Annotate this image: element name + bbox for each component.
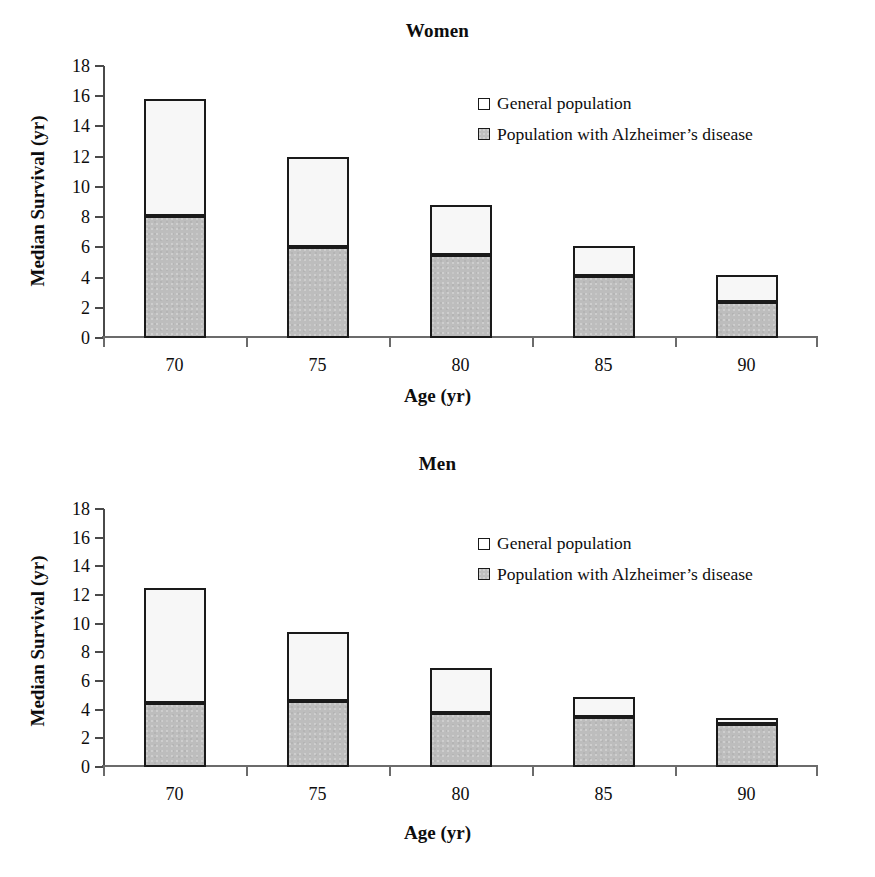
bar-segment-alzheimers[interactable] xyxy=(430,713,492,767)
legend-swatch-alzheimers-icon xyxy=(478,568,490,580)
x-tick-mark-women-4 xyxy=(675,337,677,347)
x-axis-title-women: Age (yr) xyxy=(0,385,875,407)
legend-swatch-general-icon xyxy=(478,98,490,110)
bar-segment-general[interactable] xyxy=(573,246,635,276)
x-tick-mark-women-end xyxy=(816,337,818,347)
y-tick-label: 8 xyxy=(81,643,90,661)
panel-title-women: Women xyxy=(0,20,875,42)
bar-segment-general[interactable] xyxy=(430,205,492,255)
y-tick-mark xyxy=(95,216,104,218)
y-tick-mark xyxy=(95,737,104,739)
bar-segment-alzheimers[interactable] xyxy=(573,276,635,338)
y-tick-mark xyxy=(95,307,104,309)
x-tick-label-women-90: 90 xyxy=(717,355,777,376)
y-tick-label: 14 xyxy=(72,557,90,575)
bar-men-age-85[interactable] xyxy=(573,697,635,767)
figure-two-stacked-bar-charts: Women Median Survival (yr) Age (yr) 0246… xyxy=(0,0,875,877)
x-tick-mark-women-0 xyxy=(103,337,105,347)
bar-segment-alzheimers[interactable] xyxy=(287,247,349,338)
bar-men-age-75[interactable] xyxy=(287,632,349,767)
bar-segment-alzheimers[interactable] xyxy=(287,701,349,767)
bar-women-age-70[interactable] xyxy=(144,99,206,338)
bar-men-age-90[interactable] xyxy=(716,718,778,767)
y-tick-label: 10 xyxy=(72,178,90,196)
panel-men: Men Median Survival (yr) Age (yr) 024681… xyxy=(0,440,875,877)
x-tick-mark-women-3 xyxy=(532,337,534,347)
y-tick-mark xyxy=(95,508,104,510)
bar-men-age-70[interactable] xyxy=(144,588,206,767)
panel-title-men: Men xyxy=(0,453,875,475)
x-tick-label-men-85: 85 xyxy=(574,784,634,805)
y-tick-label: 18 xyxy=(72,500,90,518)
y-tick-label: 10 xyxy=(72,615,90,633)
legend-item-general-population[interactable]: General population xyxy=(478,95,753,113)
x-tick-mark-men-3 xyxy=(532,766,534,776)
bar-segment-general[interactable] xyxy=(716,275,778,302)
y-tick-mark xyxy=(95,156,104,158)
bar-segment-general[interactable] xyxy=(287,632,349,701)
bar-segment-alzheimers[interactable] xyxy=(716,302,778,338)
legend-item-alzheimers-population[interactable]: Population with Alzheimer’s disease xyxy=(478,566,753,584)
x-tick-mark-women-2 xyxy=(389,337,391,347)
x-tick-label-men-70: 70 xyxy=(145,784,205,805)
x-tick-label-women-85: 85 xyxy=(574,355,634,376)
legend-item-general-population[interactable]: General population xyxy=(478,535,753,553)
bar-segment-alzheimers[interactable] xyxy=(716,724,778,767)
y-tick-mark xyxy=(95,246,104,248)
y-axis-line-women xyxy=(103,66,105,338)
y-tick-mark xyxy=(95,186,104,188)
bar-men-age-80[interactable] xyxy=(430,668,492,767)
legend-swatch-general-icon xyxy=(478,538,490,550)
bar-women-age-80[interactable] xyxy=(430,205,492,338)
x-tick-label-men-90: 90 xyxy=(717,784,777,805)
bar-segment-general[interactable] xyxy=(144,588,206,703)
x-tick-mark-men-1 xyxy=(246,766,248,776)
x-tick-mark-women-1 xyxy=(246,337,248,347)
y-tick-label: 6 xyxy=(81,672,90,690)
y-tick-label: 4 xyxy=(81,269,90,287)
y-tick-label: 2 xyxy=(81,299,90,317)
y-tick-label: 2 xyxy=(81,729,90,747)
bar-women-age-85[interactable] xyxy=(573,246,635,338)
y-tick-mark xyxy=(95,125,104,127)
legend-label-general-population: General population xyxy=(497,95,632,113)
y-axis-title-women: Median Survival (yr) xyxy=(27,91,49,311)
x-tick-label-women-80: 80 xyxy=(431,355,491,376)
y-tick-label: 18 xyxy=(72,57,90,75)
bar-segment-alzheimers[interactable] xyxy=(430,255,492,338)
legend-women: General population Population with Alzhe… xyxy=(478,95,753,156)
bar-segment-general[interactable] xyxy=(287,157,349,248)
bar-segment-general[interactable] xyxy=(430,668,492,713)
legend-label-alzheimers-population: Population with Alzheimer’s disease xyxy=(497,566,753,584)
legend-item-alzheimers-population[interactable]: Population with Alzheimer’s disease xyxy=(478,126,753,144)
x-tick-mark-men-0 xyxy=(103,766,105,776)
x-tick-mark-men-4 xyxy=(675,766,677,776)
bar-women-age-75[interactable] xyxy=(287,157,349,338)
bar-segment-alzheimers[interactable] xyxy=(573,717,635,767)
legend-label-general-population: General population xyxy=(497,535,632,553)
y-tick-label: 8 xyxy=(81,208,90,226)
bar-segment-alzheimers[interactable] xyxy=(144,703,206,768)
y-axis-line-men xyxy=(103,509,105,767)
legend-swatch-alzheimers-icon xyxy=(478,128,490,140)
panel-women: Women Median Survival (yr) Age (yr) 0246… xyxy=(0,0,875,440)
y-tick-label: 12 xyxy=(72,148,90,166)
x-tick-label-women-70: 70 xyxy=(145,355,205,376)
y-tick-label: 6 xyxy=(81,238,90,256)
bar-segment-general[interactable] xyxy=(573,697,635,717)
y-tick-label: 14 xyxy=(72,117,90,135)
y-tick-label: 12 xyxy=(72,586,90,604)
y-tick-mark xyxy=(95,623,104,625)
y-tick-mark xyxy=(95,680,104,682)
bar-segment-alzheimers[interactable] xyxy=(144,216,206,338)
legend-men: General population Population with Alzhe… xyxy=(478,535,753,596)
y-tick-mark xyxy=(95,565,104,567)
y-tick-label: 4 xyxy=(81,701,90,719)
y-tick-label: 0 xyxy=(81,329,90,347)
y-tick-mark xyxy=(95,277,104,279)
y-tick-mark xyxy=(95,65,104,67)
x-tick-label-women-75: 75 xyxy=(288,355,348,376)
y-tick-mark xyxy=(95,594,104,596)
bar-women-age-90[interactable] xyxy=(716,275,778,338)
bar-segment-general[interactable] xyxy=(144,99,206,215)
